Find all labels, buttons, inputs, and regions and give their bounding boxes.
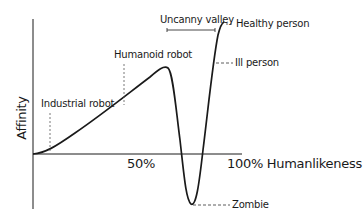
uncanny-valley-diagram bbox=[0, 0, 364, 219]
ill-person-label: Ill person bbox=[235, 58, 279, 68]
industrial-robot-label: Industrial robot bbox=[41, 99, 114, 109]
x-axis-label: 100% Humanlikeness bbox=[227, 157, 362, 170]
tick-50-label: 50% bbox=[127, 157, 155, 170]
humanoid-robot-label: Humanoid robot bbox=[114, 50, 192, 60]
uncanny-valley-label: Uncanny valley bbox=[160, 15, 234, 25]
healthy-person-label: Healthy person bbox=[236, 19, 309, 29]
y-axis-label: Affinity bbox=[15, 96, 28, 139]
zombie-label: Zombie bbox=[232, 200, 269, 210]
